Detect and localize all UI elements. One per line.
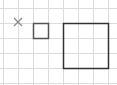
small-square [34,24,49,39]
grid-lines [0,0,117,85]
large-square [64,24,109,69]
grid-diagram [0,0,117,85]
